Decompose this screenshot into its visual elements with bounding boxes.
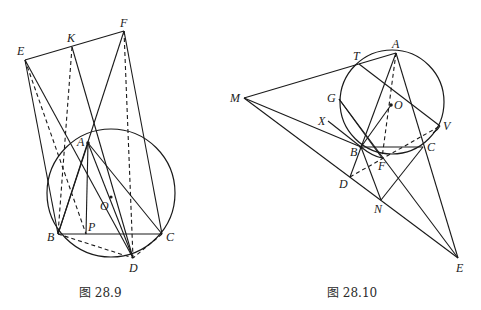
- dashed-kb: [58, 47, 72, 234]
- point-b-dot: [359, 145, 362, 148]
- label-a: A: [391, 37, 400, 51]
- label-d: D: [128, 261, 138, 275]
- point-o-dot: [389, 103, 393, 107]
- segment-xb: [328, 121, 361, 147]
- figure-28-10: A T M G O X V B C F D N E 图 28.10: [229, 37, 464, 300]
- point-a-dot: [86, 141, 90, 145]
- segment-eb: [25, 60, 58, 234]
- label-e: E: [455, 261, 464, 275]
- figure-28-9: E K F A O B P C D 图 28.9: [16, 16, 175, 300]
- dashed-fd: [124, 31, 133, 258]
- label-m: M: [229, 91, 241, 105]
- label-a: A: [76, 135, 85, 149]
- label-b: B: [350, 145, 358, 159]
- label-o: O: [394, 98, 403, 112]
- label-n: N: [373, 202, 383, 216]
- label-f: F: [377, 159, 386, 173]
- segment-kd: [72, 47, 133, 258]
- segment-fc: [124, 31, 162, 234]
- segment-bn: [361, 147, 381, 200]
- label-c: C: [166, 230, 175, 244]
- label-p: P: [87, 220, 96, 234]
- label-b: B: [47, 230, 55, 244]
- segment-ad: [88, 143, 133, 258]
- label-d: D: [338, 177, 348, 191]
- caption-fig-28-9: 图 28.9: [79, 286, 122, 300]
- label-x: X: [317, 114, 326, 128]
- circumcircle-o: [340, 50, 444, 154]
- segment-ac: [88, 143, 162, 234]
- label-e: E: [16, 44, 25, 58]
- segment-cn: [381, 147, 423, 200]
- label-o: O: [100, 199, 109, 213]
- geometry-figures: E K F A O B P C D 图 28.9: [0, 0, 481, 310]
- point-o-dot: [109, 195, 112, 198]
- label-g: G: [327, 91, 336, 105]
- segment-ab: [58, 143, 88, 234]
- circumcircle-o: [47, 129, 175, 257]
- segment-me: [244, 98, 458, 258]
- label-k: K: [66, 31, 76, 45]
- label-v: V: [443, 119, 452, 133]
- label-c: C: [427, 140, 436, 154]
- segment-tv: [359, 64, 440, 126]
- caption-fig-28-10: 图 28.10: [327, 286, 377, 300]
- segment-ae: [396, 53, 458, 258]
- label-f: F: [119, 16, 128, 30]
- segment-ed: [25, 60, 133, 258]
